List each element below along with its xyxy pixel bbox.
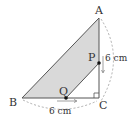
label-ac-length: 6 cm	[105, 53, 128, 63]
label-q: Q	[59, 85, 68, 98]
label-bc-length: 6 cm	[49, 106, 72, 116]
point-p	[97, 61, 101, 65]
label-b: B	[9, 96, 17, 109]
label-a: A	[94, 4, 104, 17]
triangle-diagram: A B C P Q 6 cm 6 cm	[0, 0, 136, 122]
label-p: P	[88, 51, 96, 64]
right-angle-mark	[94, 93, 99, 98]
label-c: C	[99, 99, 107, 112]
